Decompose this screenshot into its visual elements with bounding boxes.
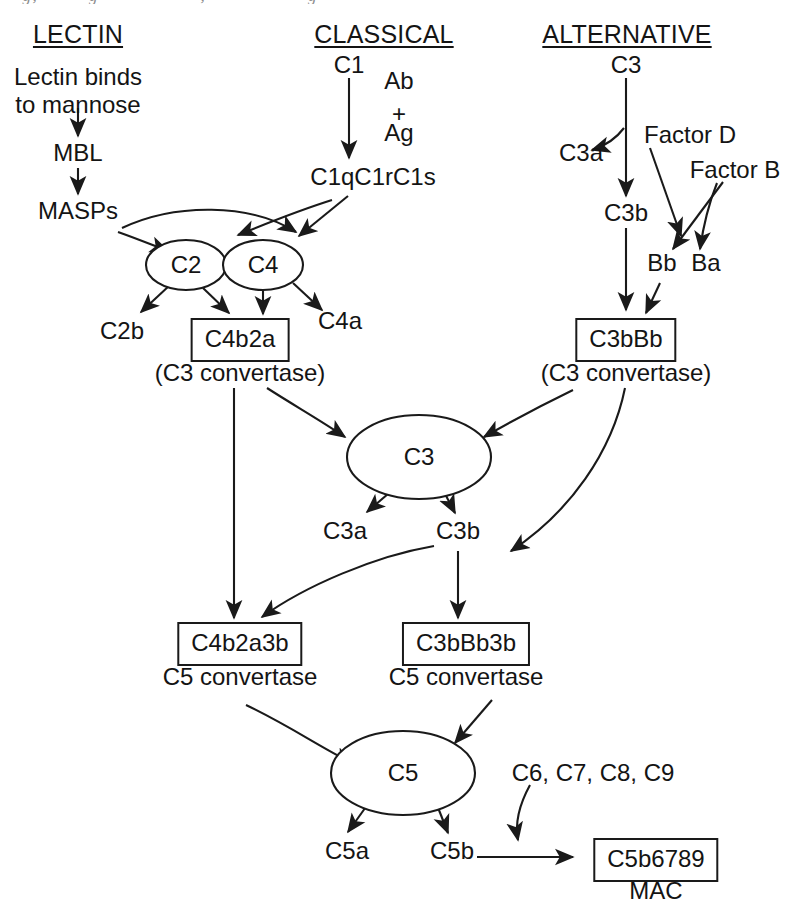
- node-mbl: MBL: [53, 140, 102, 167]
- arrow-c5-to-c5a: [348, 804, 368, 832]
- arrow-c3bbb-to-c3: [484, 390, 573, 437]
- caption-mac: MAC: [629, 878, 682, 902]
- arrow-masps-to-c2: [118, 232, 168, 251]
- arrow-masps-curve-to-c4: [122, 210, 296, 232]
- arrow-junction-to-bb: [673, 182, 723, 249]
- node-c2: C2: [171, 252, 202, 279]
- box-c3bbb: C3bBb: [575, 318, 676, 362]
- node-c1: C1: [334, 52, 365, 79]
- arrow-c2-to-c2b: [141, 285, 170, 312]
- arrow-c4-to-c4a: [293, 283, 322, 310]
- node-bb: Bb: [647, 250, 676, 277]
- label-ab: Ab: [384, 68, 413, 95]
- arrow-c3-to-c3b-central: [442, 488, 455, 513]
- node-c4a: C4a: [318, 308, 362, 335]
- lectin-initiator-line1: Lectin binds: [14, 64, 142, 91]
- complement-pathway-diagram: · ·g, · · ·g· · · · · · , · · · · · ·g· …: [0, 0, 801, 902]
- node-masps: MASPs: [38, 198, 118, 225]
- arrow-c3b-to-c4b2a3b: [262, 546, 434, 617]
- arrow-c5-to-c5b: [437, 805, 448, 833]
- box-c4b2a3b: C4b2a3b: [177, 622, 302, 666]
- arrow-late-components-to-mac: [517, 785, 530, 840]
- box-mac: C5b6789: [593, 838, 718, 882]
- node-c3b-central: C3b: [436, 518, 480, 545]
- box-c3bbb3b: C3bBb3b: [402, 622, 530, 666]
- arrow-c4b2a3b-to-c5: [246, 705, 352, 763]
- node-c5: C5: [388, 760, 419, 787]
- node-c3a-central: C3a: [323, 518, 367, 545]
- arrow-c3bbb3b-to-c5: [455, 700, 492, 743]
- heading-lectin: LECTIN: [33, 20, 123, 48]
- arrow-c3bbb-to-c3b: [511, 388, 625, 551]
- label-factor-b: Factor B: [690, 157, 781, 184]
- node-c3a-alternative: C3a: [559, 140, 603, 167]
- heading-alternative: ALTERNATIVE: [542, 20, 711, 48]
- heading-classical: CLASSICAL: [314, 20, 453, 48]
- caption-c3bbb: (C3 convertase): [541, 360, 712, 387]
- node-c3-central: C3: [404, 444, 435, 471]
- node-c3-alternative: C3: [611, 52, 642, 79]
- label-factor-d: Factor D: [644, 122, 736, 149]
- box-c4b2a: C4b2a: [191, 318, 290, 362]
- node-c5b: C5b: [430, 838, 474, 865]
- caption-c3bbb3b: C5 convertase: [389, 664, 544, 691]
- arrow-c3-to-c3a-central: [367, 487, 396, 512]
- arrow-factor-d: [650, 148, 681, 236]
- node-c4: C4: [248, 252, 279, 279]
- node-ba: Ba: [691, 250, 720, 277]
- label-ag: Ag: [384, 120, 413, 147]
- node-c1-complex: C1qC1rC1s: [310, 164, 435, 191]
- caption-c4b2a: (C3 convertase): [155, 360, 326, 387]
- caption-c4b2a3b: C5 convertase: [163, 664, 318, 691]
- arrow-c1complex-to-c2: [238, 200, 332, 235]
- arrow-c1complex-to-c4: [299, 196, 348, 236]
- arrow-c2-to-c4b2a: [203, 288, 229, 313]
- lectin-initiator-line2: to mannose: [15, 92, 140, 119]
- node-c5a: C5a: [325, 838, 369, 865]
- node-c2b: C2b: [100, 318, 144, 345]
- arrow-c4b2a-to-c3: [267, 388, 345, 437]
- label-late-components: C6, C7, C8, C9: [512, 760, 675, 787]
- arrow-factor-b-to-ba: [700, 183, 717, 249]
- node-c3b-alternative: C3b: [604, 200, 648, 227]
- arrow-bb-to-c3bbb: [646, 283, 660, 313]
- cropped-header-text: · ·g, · · ·g· · · · · · , · · · · · ·g· …: [0, 0, 801, 4]
